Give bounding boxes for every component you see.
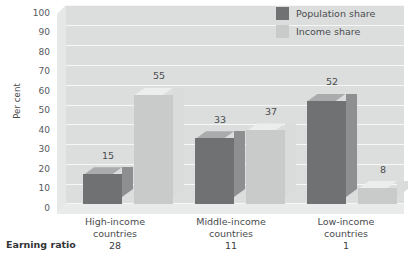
y-tick-60: 60	[22, 87, 50, 96]
y-tick-40: 40	[22, 126, 50, 135]
bar-population-share-middle-income[interactable]	[195, 138, 234, 204]
legend-item-income-share[interactable]: Income share	[276, 24, 404, 39]
y-tick-30: 30	[22, 145, 50, 154]
bar-label-population-share-middle-income: 33	[202, 115, 238, 125]
y-tick-10: 10	[22, 184, 50, 193]
y-tick-0: 0	[22, 204, 50, 213]
legend-label-income-share: Income share	[296, 27, 360, 37]
bar-side-face	[346, 94, 357, 198]
bar-label-population-share-low-income: 52	[314, 77, 350, 87]
bar-front-face	[246, 130, 285, 204]
legend-label-population-share: Population share	[296, 9, 375, 19]
bar-side-face	[397, 181, 408, 197]
bar-income-share-middle-income[interactable]	[246, 130, 285, 204]
earning-ratio-value-middle-income: 11	[173, 240, 289, 252]
bar-front-face	[134, 95, 173, 205]
bar-income-share-high-income[interactable]	[134, 95, 173, 205]
bar-side-face	[285, 123, 296, 197]
bar-label-income-share-high-income: 55	[141, 71, 177, 81]
y-tick-20: 20	[22, 165, 50, 174]
bar-front-face	[195, 138, 234, 204]
category-line2: countries	[57, 228, 173, 240]
bar-front-face	[307, 101, 346, 205]
bar-front-face	[83, 174, 122, 204]
bar-side-face	[173, 88, 184, 198]
category-line1: Middle-income	[173, 216, 289, 228]
y-tick-80: 80	[22, 48, 50, 57]
category-line2: countries	[173, 228, 289, 240]
plot-floor	[57, 204, 404, 214]
bar-side-face	[234, 131, 245, 197]
y-tick-90: 90	[22, 28, 50, 37]
y-tick-70: 70	[22, 67, 50, 76]
bar-population-share-low-income[interactable]	[307, 101, 346, 205]
bar-chart: Per cent 100 90 80 70 60 50 40 30 20 10 …	[0, 0, 409, 257]
y-tick-50: 50	[22, 106, 50, 115]
category-line1: High-income	[57, 216, 173, 228]
legend: Population share Income share	[276, 6, 404, 42]
category-line2: countries	[288, 228, 404, 240]
category-label-middle-income: Middle-income countries 11	[173, 216, 289, 252]
y-tick-100: 100	[22, 9, 50, 18]
bar-population-share-high-income[interactable]	[83, 174, 122, 204]
category-label-low-income: Low-income countries 1	[288, 216, 404, 252]
earning-ratio-row-label: Earning ratio	[6, 239, 76, 250]
category-line1: Low-income	[288, 216, 404, 228]
bar-label-income-share-middle-income: 37	[253, 107, 289, 117]
plot-left-wall	[57, 5, 66, 214]
y-axis-ticks: 100 90 80 70 60 50 40 30 20 10 0	[4, 0, 50, 257]
legend-swatch-population-share	[276, 7, 289, 20]
earning-ratio-value-low-income: 1	[288, 240, 404, 252]
bar-label-income-share-low-income: 8	[365, 165, 401, 175]
bar-front-face	[358, 188, 397, 204]
bar-side-face	[122, 167, 133, 197]
legend-swatch-income-share	[276, 25, 289, 38]
bar-income-share-low-income[interactable]	[358, 188, 397, 204]
legend-item-population-share[interactable]: Population share	[276, 6, 404, 21]
bar-label-population-share-high-income: 15	[90, 151, 126, 161]
